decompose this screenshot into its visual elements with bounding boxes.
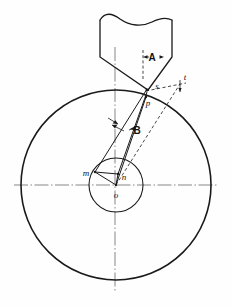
point-marker-m	[94, 171, 96, 173]
line-o-to-p	[116, 97, 146, 185]
point-label-t: t	[184, 72, 187, 82]
dashed-construction-group	[116, 83, 186, 185]
point-label-p: p	[145, 98, 151, 108]
engineering-drawing-svg: A B s t p m n o	[0, 0, 232, 307]
point-label-n: n	[122, 172, 127, 182]
point-label-m: m	[83, 168, 90, 178]
angle-b-left-arrowhead	[112, 125, 117, 129]
angle-a-left-arrowhead	[143, 55, 148, 59]
angle-b-dimension-group	[112, 125, 135, 131]
point-label-s: s	[155, 81, 159, 91]
point-label-o: o	[114, 190, 119, 200]
point-marker-n	[117, 173, 119, 175]
angle-label-b: B	[133, 125, 140, 136]
point-marker-o	[115, 184, 117, 186]
wedge-pointer-group	[108, 118, 118, 124]
cutting-tool-outline	[100, 20, 172, 90]
angle-label-a: A	[148, 52, 155, 63]
centerlines-group	[14, 47, 219, 292]
point-marker-s	[146, 89, 149, 92]
wedge-pointer-arrowhead	[113, 120, 118, 124]
figure-container: A B s t p m n o	[0, 0, 232, 307]
arrowhead-at-t	[178, 88, 181, 92]
tool-break-line	[100, 14, 172, 25]
